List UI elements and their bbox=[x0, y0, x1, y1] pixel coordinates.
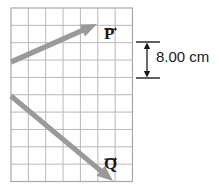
dimension-arrowhead-up bbox=[144, 43, 150, 50]
vector-grid-figure: P Q 8.00 cm bbox=[0, 0, 219, 191]
vector-arrow-overbar-icon bbox=[104, 25, 117, 32]
vector-arrow-overbar-icon bbox=[104, 155, 117, 162]
dimension-label: 8.00 cm bbox=[156, 49, 209, 64]
vector-label-q: Q bbox=[104, 155, 117, 172]
vector-label-p: P bbox=[104, 25, 114, 42]
dimension-arrowhead-down bbox=[144, 71, 150, 78]
